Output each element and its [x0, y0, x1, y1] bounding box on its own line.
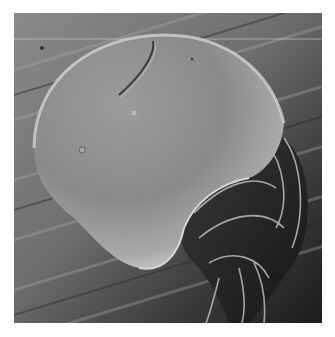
mite-illustration	[14, 13, 322, 323]
micrograph-image	[14, 13, 322, 323]
